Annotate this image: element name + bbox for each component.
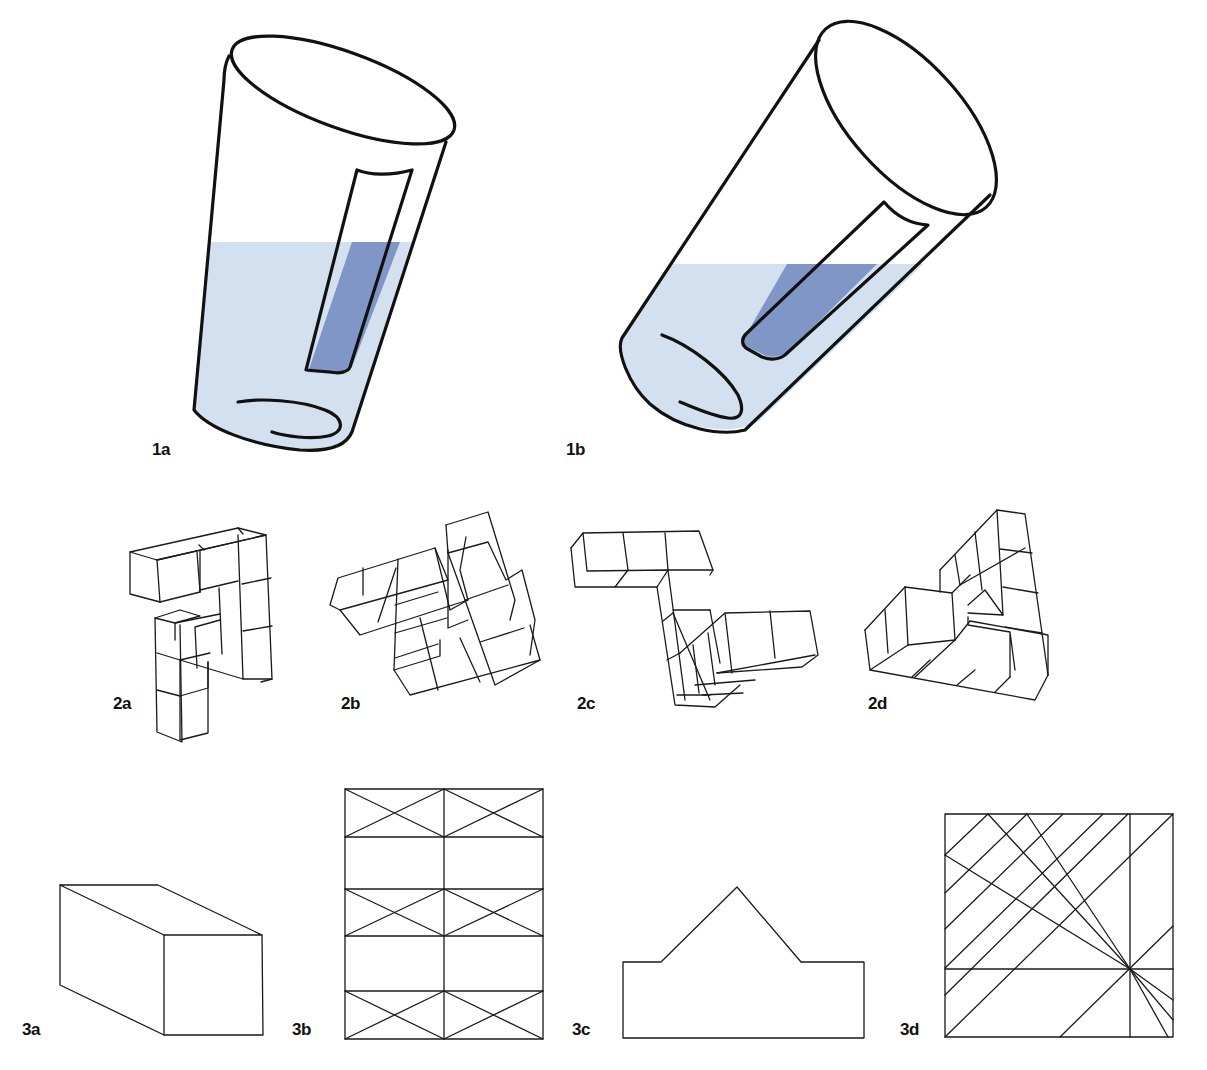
cubes-2a	[130, 528, 272, 742]
figure-canvas	[0, 0, 1207, 1070]
glass-1b	[600, 0, 1028, 464]
pattern-3d	[945, 814, 1173, 1037]
cubes-2c	[571, 531, 818, 707]
cubes-2b	[330, 512, 540, 695]
figure: 1a 1b 2a 2b 2c 2d 3a 3b 3c 3d	[0, 0, 1207, 1070]
grid-3b	[345, 789, 543, 1039]
cubes-2d	[865, 510, 1048, 700]
glass-1a	[150, 14, 470, 472]
box-3a	[60, 885, 263, 1035]
outline-3c	[623, 887, 864, 1038]
